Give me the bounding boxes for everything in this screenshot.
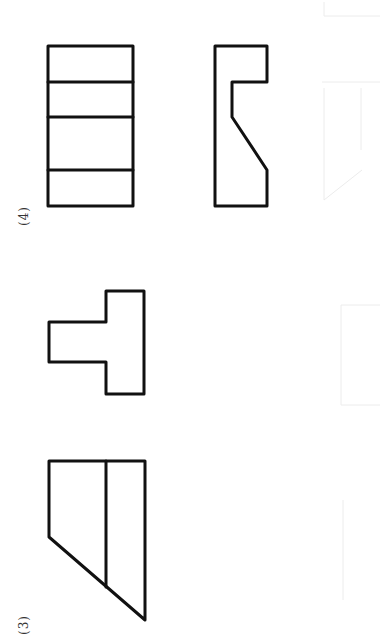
t-shape xyxy=(49,291,144,394)
figure-4-side-view xyxy=(215,46,267,206)
trapezoid xyxy=(49,461,145,620)
outer-rectangle xyxy=(48,46,133,206)
technical-drawing xyxy=(0,0,380,638)
figure-3-trapezoid-view xyxy=(49,461,145,620)
figure-4-front-view xyxy=(48,46,133,206)
figure-label-3: (3) xyxy=(17,615,31,635)
figure-label-4: (4) xyxy=(17,206,31,226)
figure-3-t-view xyxy=(49,291,144,394)
notched-profile xyxy=(215,46,267,206)
bleed-through-marks xyxy=(322,2,380,600)
drawing-canvas: (4) (3) xyxy=(0,0,380,638)
